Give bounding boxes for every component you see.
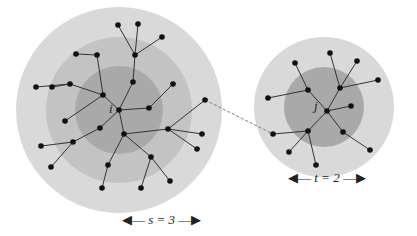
node xyxy=(170,81,176,87)
node xyxy=(146,105,152,111)
node xyxy=(105,162,111,168)
node xyxy=(286,149,292,155)
node xyxy=(265,95,271,101)
node xyxy=(100,92,106,98)
node xyxy=(327,50,333,56)
node xyxy=(48,164,54,170)
node xyxy=(305,128,311,134)
node xyxy=(70,139,76,145)
t-radius-caption: ◀— t = 2 —▶ xyxy=(288,170,366,186)
node xyxy=(121,131,127,137)
node xyxy=(167,178,173,184)
node xyxy=(270,131,276,137)
diagram-canvas: ij xyxy=(0,0,417,236)
node xyxy=(116,107,122,113)
node xyxy=(337,85,343,91)
t-caption-text: t = 2 xyxy=(314,170,339,185)
network-diagram: ij ◀— s = 3 —▶ ◀— t = 2 —▶ xyxy=(0,0,417,236)
node xyxy=(324,108,330,114)
s-caption-text: s = 3 xyxy=(148,212,175,227)
node xyxy=(292,60,298,66)
node xyxy=(138,185,144,191)
node xyxy=(194,146,200,152)
node xyxy=(135,21,141,27)
node xyxy=(97,125,103,131)
node xyxy=(132,52,138,58)
node xyxy=(49,84,55,90)
node xyxy=(354,58,360,64)
node xyxy=(33,84,39,90)
node xyxy=(367,147,373,153)
arrow-right-icon: —▶ xyxy=(178,212,201,227)
node xyxy=(165,126,171,132)
node xyxy=(159,34,165,40)
node xyxy=(148,154,154,160)
node xyxy=(348,103,354,109)
node xyxy=(99,185,105,191)
node xyxy=(94,52,100,58)
node xyxy=(375,77,381,83)
node xyxy=(115,22,121,28)
arrow-left-icon: ◀— xyxy=(122,212,145,227)
arrow-right-icon: —▶ xyxy=(343,170,366,185)
node xyxy=(199,131,205,137)
node xyxy=(305,87,311,93)
node xyxy=(202,97,208,103)
s-radius-caption: ◀— s = 3 —▶ xyxy=(122,212,201,228)
node xyxy=(73,51,79,57)
node xyxy=(67,81,73,87)
node xyxy=(62,118,68,124)
node xyxy=(38,143,44,149)
node xyxy=(130,79,136,85)
node xyxy=(313,162,319,168)
node xyxy=(340,129,346,135)
left-center-label: i xyxy=(109,101,113,116)
arrow-left-icon: ◀— xyxy=(288,170,311,185)
